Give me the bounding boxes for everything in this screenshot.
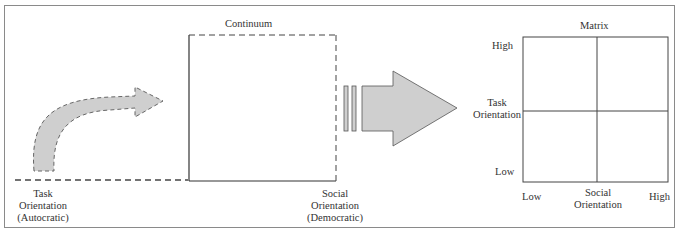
big-arrow-icon xyxy=(362,71,457,146)
continuum-title: Continuum xyxy=(225,18,272,30)
matrix-title: Matrix xyxy=(580,20,609,32)
arrow-bar-1 xyxy=(344,86,348,131)
x-axis-high: High xyxy=(649,191,670,203)
arrow-bar-2 xyxy=(352,86,356,131)
x-axis-label: Social Orientation xyxy=(568,187,628,211)
matrix-grid xyxy=(523,37,668,182)
y-axis-label: Task Orientation xyxy=(470,97,524,121)
x-axis-low: Low xyxy=(522,191,541,203)
y-axis-high: High xyxy=(492,40,513,52)
social-orientation-label: Social Orientation (Democratic) xyxy=(300,188,370,224)
curved-arrow-icon xyxy=(34,87,163,171)
y-axis-low: Low xyxy=(495,166,514,178)
task-orientation-label: Task Orientation (Autocratic) xyxy=(8,188,78,224)
